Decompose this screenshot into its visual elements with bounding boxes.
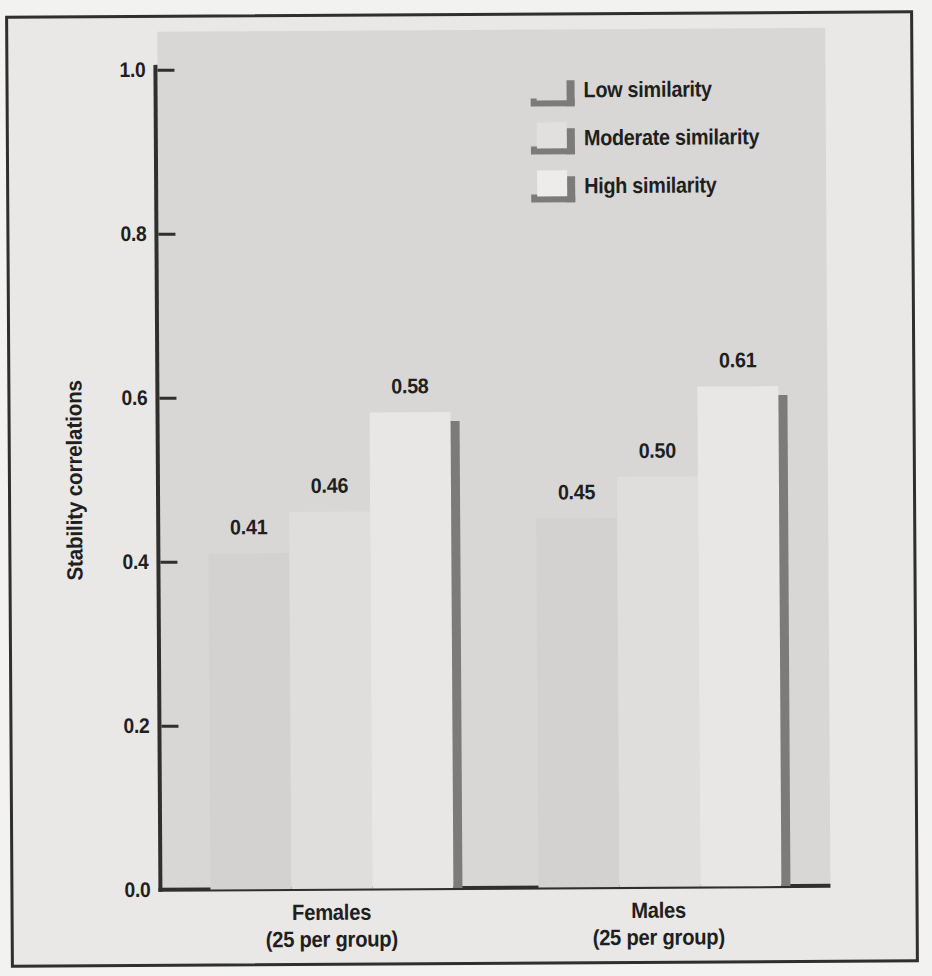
figure-frame: Stability correlations 1.00.80.60.40.20.…: [5, 10, 919, 968]
legend-item-high-similarity: High similarity: [531, 169, 731, 202]
bar-low-similarity-males: [536, 518, 619, 887]
y-tick-mark: [157, 69, 174, 72]
bar-moderate-similarity-males: [617, 477, 701, 887]
y-tick-mark: [161, 725, 178, 728]
legend-swatch-high: [531, 170, 575, 202]
swatch-fill: [537, 170, 567, 196]
bar-low-similarity-females: [208, 553, 291, 890]
bar-value-label: 0.50: [619, 439, 695, 463]
bar-value-label: 0.45: [538, 480, 614, 504]
swatch-fill: [536, 74, 566, 100]
category-sublabel: (25 per group): [212, 925, 451, 953]
y-tick-mark: [159, 397, 176, 400]
legend-label-low: Low similarity: [583, 76, 711, 103]
swatch-fill: [537, 122, 567, 148]
y-tick-label: 1.0: [86, 57, 146, 83]
bar-high-similarity-males: [697, 386, 781, 887]
y-axis-title: Stability correlations: [60, 339, 90, 621]
legend-label-high: High similarity: [584, 172, 717, 199]
bar-value-label: 0.41: [211, 515, 287, 539]
y-tick-label: 0.0: [91, 877, 151, 903]
y-tick-mark: [160, 561, 177, 564]
category-name: Males: [539, 896, 778, 924]
legend-swatch-low: [530, 74, 574, 106]
legend-item-moderate-similarity: Moderate similarity: [531, 121, 779, 155]
legend-item-low-similarity: Low similarity: [530, 73, 726, 106]
y-tick-mark: [158, 233, 175, 236]
bar-value-label: 0.46: [291, 473, 367, 497]
y-tick-label: 0.4: [89, 549, 149, 575]
y-tick-label: 0.6: [88, 385, 148, 411]
bar-value-label: 0.61: [700, 348, 776, 372]
y-tick-label: 0.8: [87, 221, 147, 247]
bar-moderate-similarity-females: [289, 511, 372, 889]
legend-label-moderate: Moderate similarity: [584, 124, 760, 151]
legend-swatch-moderate: [531, 122, 575, 154]
category-name: Females: [212, 898, 451, 926]
x-category-label-females: Females (25 per group): [202, 898, 462, 954]
bar-high-similarity-females: [370, 412, 454, 888]
category-sublabel: (25 per group): [539, 923, 778, 951]
y-tick-label: 0.2: [90, 713, 150, 739]
plot-marks-layer: 1.00.80.60.40.20.00.410.450.460.500.580.…: [8, 13, 910, 19]
page: Stability correlations 1.00.80.60.40.20.…: [0, 0, 932, 976]
bar-value-label: 0.58: [372, 374, 448, 398]
x-category-label-males: Males (25 per group): [528, 896, 788, 952]
